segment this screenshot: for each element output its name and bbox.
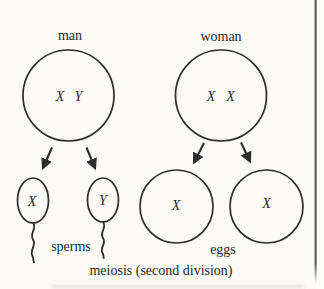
figure-caption: meiosis (second division) (89, 263, 232, 279)
sperm-right-chromosome: Y (99, 193, 109, 208)
page-margin-strip (317, 0, 324, 289)
man-cell-chromosome-y: Y (75, 89, 85, 104)
sperm-left-chromosome: X (27, 194, 37, 209)
man-cell-chromosome-x: X (55, 89, 65, 104)
woman-cell-chromosome-x2: X (225, 89, 235, 104)
egg-right-chromosome: X (261, 196, 271, 211)
woman-division-arrow-left-icon (194, 143, 204, 163)
sperm-left-tail (32, 223, 35, 263)
woman-parent-cell-circle (176, 50, 267, 141)
man-division-arrow-right-icon (87, 148, 96, 169)
woman-title: woman (200, 29, 241, 44)
woman-division-arrow-right-icon (241, 143, 250, 162)
sperm-right-tail (102, 222, 105, 258)
woman-cell-chromosome-x1: X (206, 89, 216, 104)
eggs-label: eggs (210, 242, 236, 257)
man-division-arrow-left-icon (43, 148, 52, 169)
scan-smudge (52, 285, 304, 288)
man-title: man (58, 28, 82, 43)
man-parent-cell-circle (23, 50, 114, 141)
meiosis-diagram: man woman X Y X X X Y X X sperms eggs me… (0, 0, 324, 289)
page-edge-line (315, 0, 317, 283)
sperms-label: sperms (51, 239, 91, 254)
scanned-textbook-figure: man woman X Y X X X Y X X sperms eggs me… (0, 0, 324, 289)
egg-left-chromosome: X (171, 198, 181, 213)
